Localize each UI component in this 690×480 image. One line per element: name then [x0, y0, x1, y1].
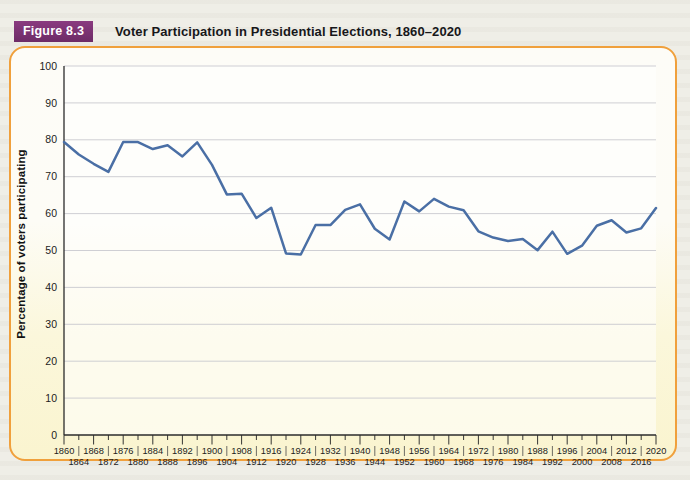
figure-number-badge: Figure 8.3	[14, 21, 93, 42]
chart-panel	[9, 46, 677, 461]
figure-title: Voter Participation in Presidential Elec…	[115, 24, 461, 39]
figure-header: Figure 8.3 Voter Participation in Presid…	[14, 20, 461, 42]
y-axis-title: Percentage of voters participating	[15, 129, 27, 359]
